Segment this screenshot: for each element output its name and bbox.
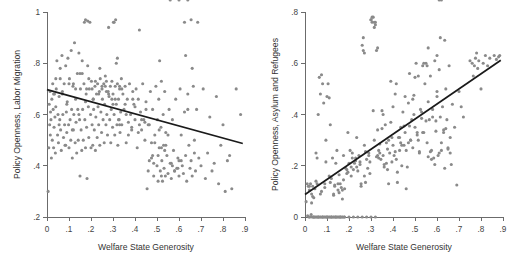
data-point <box>117 98 120 101</box>
data-point <box>104 75 107 78</box>
data-point <box>453 126 456 129</box>
data-point <box>380 109 383 112</box>
data-point <box>73 41 76 44</box>
data-point <box>405 149 408 152</box>
data-point <box>85 177 88 180</box>
data-point <box>475 51 478 54</box>
data-point <box>104 85 107 88</box>
data-point <box>63 123 66 126</box>
x-tick-label: .7 <box>198 225 205 234</box>
data-point <box>383 163 386 166</box>
data-point <box>407 101 410 104</box>
panel-right: 0.2.4.6.80.1.2.3.4.5.6.7.8.9Welfare Stat… <box>258 0 516 267</box>
data-point <box>376 46 379 49</box>
data-point <box>52 108 55 111</box>
data-point <box>391 144 394 147</box>
data-point <box>65 103 68 106</box>
data-point <box>173 169 176 172</box>
data-point <box>87 77 90 80</box>
data-point <box>391 105 394 108</box>
data-point <box>408 72 411 75</box>
x-tick-label: .5 <box>154 225 161 234</box>
data-point <box>356 169 359 172</box>
data-point <box>433 59 436 62</box>
data-point <box>60 149 63 152</box>
data-point <box>355 136 358 139</box>
data-point <box>420 117 423 120</box>
data-point <box>116 144 119 147</box>
x-tick-label: .4 <box>390 225 397 234</box>
data-point <box>440 141 443 144</box>
data-point <box>164 144 167 147</box>
data-point <box>105 90 108 93</box>
data-point <box>389 80 392 83</box>
data-point <box>451 103 454 106</box>
data-point <box>158 128 161 131</box>
data-point <box>449 136 452 139</box>
data-point <box>343 215 346 218</box>
data-point <box>188 167 191 170</box>
data-point <box>176 167 179 170</box>
data-point <box>389 121 392 124</box>
data-point <box>65 131 68 134</box>
x-tick-label: .3 <box>368 225 375 234</box>
data-point <box>68 77 71 80</box>
data-point <box>363 174 366 177</box>
data-point <box>206 151 209 154</box>
data-point <box>161 180 164 183</box>
data-point <box>180 159 183 162</box>
data-point <box>352 168 355 171</box>
data-point <box>58 95 61 98</box>
data-point <box>118 85 121 88</box>
data-point <box>330 215 333 218</box>
data-point <box>48 123 51 126</box>
data-point <box>76 72 79 75</box>
data-point <box>371 16 374 19</box>
data-point <box>335 149 338 152</box>
data-point <box>427 155 430 158</box>
data-point <box>67 82 70 85</box>
data-point <box>84 146 87 149</box>
data-point <box>89 113 92 116</box>
data-point <box>199 164 202 167</box>
data-point <box>138 28 141 31</box>
data-point <box>70 49 73 52</box>
data-point <box>174 98 177 101</box>
data-point <box>194 169 197 172</box>
data-point <box>143 139 146 142</box>
data-point <box>382 113 385 116</box>
regression-fit-line <box>305 60 501 194</box>
data-point <box>94 149 97 152</box>
data-point <box>324 139 327 142</box>
data-point <box>92 98 95 101</box>
data-point <box>58 123 61 126</box>
data-point <box>186 92 189 95</box>
data-point <box>109 85 112 88</box>
data-point <box>106 133 109 136</box>
data-point <box>332 194 335 197</box>
x-tick-label: 0 <box>45 225 50 234</box>
data-point <box>395 158 398 161</box>
data-point <box>77 139 80 142</box>
data-point <box>98 144 101 147</box>
data-point <box>195 108 198 111</box>
data-point <box>438 151 441 154</box>
data-point <box>440 0 443 2</box>
data-point <box>91 87 94 90</box>
data-point <box>426 141 429 144</box>
data-point <box>329 123 332 126</box>
data-point <box>311 185 314 188</box>
data-point <box>412 94 415 97</box>
data-point <box>168 108 171 111</box>
data-point <box>70 108 73 111</box>
y-tick-label: .2 <box>291 162 298 171</box>
data-point <box>446 146 449 149</box>
data-point <box>400 164 403 167</box>
data-point <box>60 54 63 57</box>
y-tick-label: .8 <box>33 59 40 68</box>
data-point <box>113 113 116 116</box>
data-point <box>184 154 187 157</box>
data-point <box>71 157 74 160</box>
data-point <box>164 131 167 134</box>
data-point <box>160 146 163 149</box>
